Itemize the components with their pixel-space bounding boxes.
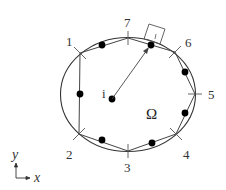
region-label-omega: Ω bbox=[146, 106, 157, 122]
diagram-canvas: 1 2 3 4 5 6 7 i Ω y x bbox=[0, 0, 226, 190]
vertex-label-6: 6 bbox=[185, 35, 192, 50]
vertex-label-4: 4 bbox=[183, 147, 190, 162]
boundary-nodes bbox=[77, 42, 189, 147]
arrow-head-icon bbox=[143, 47, 149, 54]
node-dot bbox=[182, 69, 189, 76]
detail-box-tick bbox=[155, 34, 156, 39]
axis-label-x: x bbox=[33, 170, 41, 185]
node-dot bbox=[99, 137, 106, 144]
vertex-label-7: 7 bbox=[124, 15, 131, 30]
vertex-label-1: 1 bbox=[66, 34, 73, 49]
node-dot bbox=[182, 110, 189, 117]
vertex-label-3: 3 bbox=[124, 160, 131, 175]
detail-box bbox=[144, 24, 165, 44]
vertex-label-5: 5 bbox=[208, 87, 215, 102]
node-dot bbox=[77, 91, 84, 98]
vertex-label-2: 2 bbox=[66, 147, 73, 162]
node-dot bbox=[149, 140, 156, 147]
node-dot bbox=[99, 42, 106, 49]
axes-icon bbox=[15, 163, 31, 180]
center-label-i: i bbox=[102, 86, 106, 101]
boundary-polygon bbox=[79, 38, 195, 151]
arrow-line bbox=[112, 50, 147, 99]
axis-label-y: y bbox=[10, 147, 19, 162]
